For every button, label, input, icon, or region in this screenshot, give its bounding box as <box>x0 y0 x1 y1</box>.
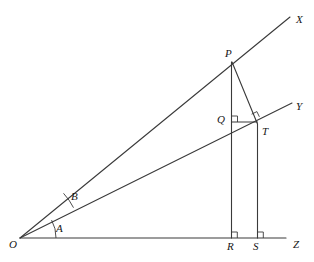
ray-OX <box>20 17 290 238</box>
segment-PT <box>232 62 258 124</box>
point-label-P: P <box>225 48 232 59</box>
point-label-T: T <box>262 126 268 137</box>
right-angle-mark-R <box>232 232 238 238</box>
right-angle-mark-S <box>258 232 264 238</box>
geometry-figure: O X Y Z P Q T R S A B <box>0 0 314 262</box>
point-label-Z: Z <box>293 239 299 250</box>
point-label-O: O <box>9 239 17 250</box>
point-label-S: S <box>253 241 259 252</box>
point-label-X: X <box>296 14 303 25</box>
point-label-Q: Q <box>217 114 225 125</box>
point-label-R: R <box>227 241 234 252</box>
point-label-Y: Y <box>296 101 302 112</box>
ray-OY <box>20 103 292 238</box>
angle-label-B: B <box>71 191 78 202</box>
angle-label-A: A <box>56 223 63 234</box>
right-angle-mark-Q <box>232 116 238 122</box>
